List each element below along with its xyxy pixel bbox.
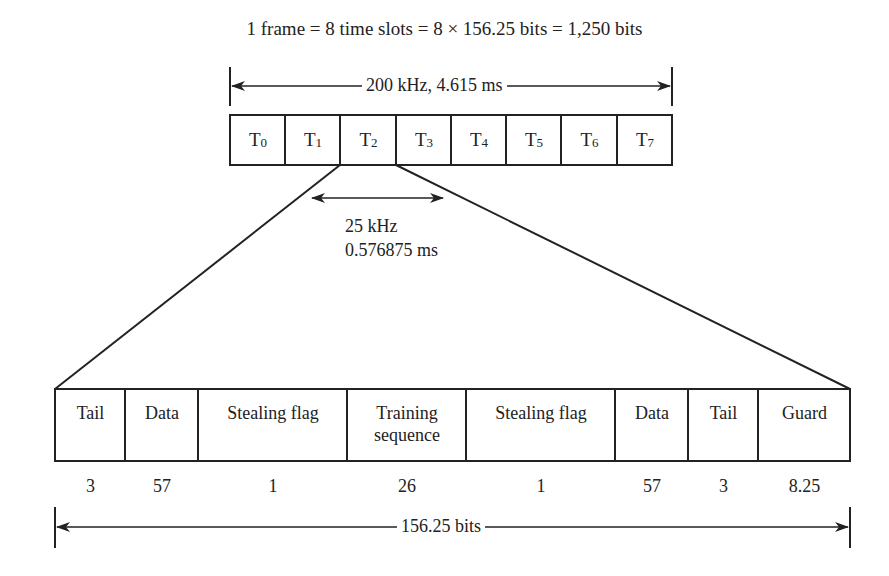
time-slot-2: T2 <box>341 116 396 164</box>
burst-field-tail: Tail <box>56 390 125 460</box>
time-slot-5: T5 <box>507 116 561 164</box>
slot-detail-label: 25 kHz 0.576875 ms <box>345 214 438 262</box>
burst-field-stealing-flag: Stealing flag <box>199 390 347 460</box>
time-slot-1: T1 <box>286 116 340 164</box>
slot-bandwidth: 25 kHz <box>345 214 438 238</box>
bits-stealing-flag: 1 <box>199 476 347 497</box>
burst-span-label: 156.25 bits <box>397 516 485 537</box>
time-slot-6: T6 <box>562 116 617 164</box>
bits-tail: 3 <box>689 476 758 497</box>
burst-field-data: Data <box>126 390 198 460</box>
burst-field-stealing-flag: Stealing flag <box>467 390 615 460</box>
frame-span-label: 200 kHz, 4.615 ms <box>362 75 507 96</box>
bits-training-sequence: 26 <box>348 476 466 497</box>
time-slot-4: T4 <box>452 116 506 164</box>
slot-duration: 0.576875 ms <box>345 238 438 262</box>
bits-stealing-flag: 1 <box>467 476 615 497</box>
time-slot-7: T7 <box>618 116 672 164</box>
burst-field-training-sequence: Training sequence <box>348 390 466 460</box>
burst-field-tail: Tail <box>689 390 758 460</box>
bits-tail: 3 <box>56 476 125 497</box>
time-slot-0: T0 <box>231 116 285 164</box>
bits-data: 57 <box>616 476 688 497</box>
time-slot-3: T3 <box>397 116 451 164</box>
bits-data: 57 <box>126 476 198 497</box>
burst-field-data: Data <box>616 390 688 460</box>
bits-guard: 8.25 <box>759 476 850 497</box>
burst-field-guard: Guard <box>759 390 850 460</box>
